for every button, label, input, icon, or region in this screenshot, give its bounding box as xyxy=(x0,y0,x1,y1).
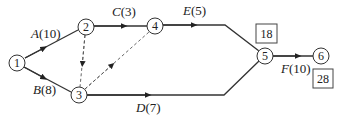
svg-text:2: 2 xyxy=(83,20,89,34)
event-time-box-node-5: 18 xyxy=(256,24,277,43)
node-5: 5 xyxy=(257,48,273,64)
svg-text:5: 5 xyxy=(262,49,268,63)
activity-d xyxy=(87,61,259,95)
node-3: 3 xyxy=(71,87,87,103)
node-6: 6 xyxy=(313,48,329,64)
svg-text:6: 6 xyxy=(318,49,324,63)
svg-text:1: 1 xyxy=(14,56,20,70)
node-1: 1 xyxy=(9,55,25,71)
label-activity-a: A(10) xyxy=(30,26,61,41)
node-2: 2 xyxy=(78,19,94,35)
svg-text:28: 28 xyxy=(317,72,329,86)
label-activity-d: D(7) xyxy=(135,100,161,115)
network-diagram: 1 2 3 4 5 6 18 28 A(10) B(8) C(3) D(7) E… xyxy=(0,0,337,118)
svg-text:3: 3 xyxy=(76,88,82,102)
event-time-box-node-6: 28 xyxy=(313,69,333,88)
svg-text:18: 18 xyxy=(261,27,273,41)
node-4: 4 xyxy=(147,18,163,34)
label-activity-e: E(5) xyxy=(182,3,206,18)
label-activity-f: F(10) xyxy=(280,61,311,76)
dummy-activity-3-4 xyxy=(85,32,149,89)
activity-e xyxy=(163,25,259,51)
dummy-activity-2-3 xyxy=(80,35,85,87)
svg-text:4: 4 xyxy=(152,19,158,33)
label-activity-c: C(3) xyxy=(112,4,136,19)
label-activity-b: B(8) xyxy=(33,82,56,97)
